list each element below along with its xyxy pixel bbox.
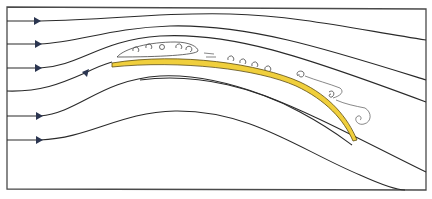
flow-diagram xyxy=(0,0,432,199)
streamline-2 xyxy=(7,26,426,80)
arrow-icon xyxy=(36,136,43,144)
arrow-icon xyxy=(35,64,42,72)
flow-arrows xyxy=(34,17,89,144)
curved-wing xyxy=(112,59,357,141)
arrow-icon xyxy=(82,69,89,77)
diagram-frame xyxy=(7,7,426,190)
streamlines xyxy=(7,14,426,190)
streamline-3 xyxy=(7,36,426,102)
arrow-icon xyxy=(35,40,42,48)
arrow-icon xyxy=(36,112,43,120)
arrow-icon xyxy=(34,17,41,25)
streamline-4 xyxy=(7,62,112,91)
streamline-1 xyxy=(7,14,426,40)
